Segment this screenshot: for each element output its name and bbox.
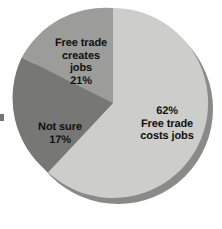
pie-chart-svg bbox=[0, 0, 222, 229]
page-edge-artifact bbox=[0, 114, 4, 121]
pie-chart: Free trade creates jobs 21% 62% Free tra… bbox=[0, 0, 222, 229]
